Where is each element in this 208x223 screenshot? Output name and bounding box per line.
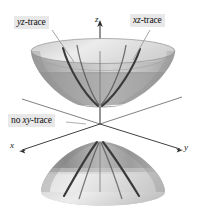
callout-xz-trace-plain: -trace [141,15,162,25]
lower-sheet-bottom-face [41,192,165,206]
upper-sheet [20,39,190,118]
hyperboloid-figure: yz-trace xz-trace no xy-trace z x y [0,0,208,223]
callout-no-xy-trace: no xy-trace [8,114,55,127]
callout-xz-trace: xz-trace [130,14,165,27]
callout-yz-trace-plain: -trace [25,17,46,27]
no-xy-trace-leader-line [66,122,86,124]
axis-label-y: y [184,142,188,152]
callout-no-xy-trace-prefix: no [11,115,23,125]
callout-no-xy-trace-italic: xy [23,115,31,125]
axis-label-x: x [10,140,14,150]
callout-xz-trace-italic: xz [133,15,141,25]
callout-yz-trace-italic: yz [17,17,25,27]
lower-sheet [30,141,180,206]
callout-yz-trace: yz-trace [14,16,49,29]
hyperboloid-diagram-canvas [0,0,208,223]
callout-no-xy-trace-plain: -trace [31,115,52,125]
axis-label-z: z [95,14,99,24]
